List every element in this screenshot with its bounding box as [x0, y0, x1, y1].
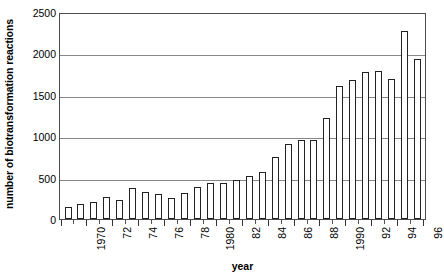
bar [220, 183, 227, 219]
bar [336, 86, 343, 219]
x-axis-tick [281, 220, 282, 224]
y-axis-tick-label: 1500 [20, 91, 56, 101]
bar [77, 204, 84, 219]
x-axis-tick-label: 96 [432, 227, 444, 261]
x-axis-tick-label: 84 [276, 227, 288, 261]
x-axis-tick-label: 72 [121, 227, 133, 261]
x-axis-tick [73, 220, 74, 224]
x-axis-tick-label: 76 [173, 227, 185, 261]
x-axis-tick [255, 220, 256, 224]
bar [323, 118, 330, 219]
y-axis-title-text: number of biotransformation reactions [3, 19, 15, 209]
x-axis-tick-label: 74 [147, 227, 159, 261]
x-axis-tick-label: 94 [406, 227, 418, 261]
bars-layer [60, 14, 425, 219]
bar [362, 72, 369, 219]
y-axis-tick-label: 2500 [20, 8, 56, 18]
bar [207, 183, 214, 219]
bar [388, 79, 395, 219]
bar [129, 188, 136, 219]
bar [375, 71, 382, 219]
bar [65, 207, 72, 219]
bar [272, 157, 279, 220]
x-axis-tick [332, 220, 333, 224]
y-axis-tick-label: 2000 [20, 49, 56, 59]
bar [246, 176, 253, 219]
plot-area [59, 13, 426, 220]
y-axis-tick-labels: 05001000150020002500 [18, 0, 56, 279]
x-axis-tick-labels: 1970727476781980828486881990929496 [59, 226, 426, 260]
y-axis-tick-label: 0 [20, 215, 56, 225]
x-axis-tick [99, 220, 100, 224]
bar [90, 202, 97, 219]
x-axis-tick [125, 220, 126, 224]
x-axis-tick-label: 1990 [354, 227, 366, 261]
y-axis-tick-label: 1000 [20, 132, 56, 142]
x-axis-tick [229, 220, 230, 224]
x-axis-tick [203, 220, 204, 224]
x-axis-title: year [59, 260, 426, 272]
y-axis-tick-label: 500 [20, 174, 56, 184]
bar [298, 140, 305, 219]
bar [285, 144, 292, 219]
x-axis-tick-label: 92 [380, 227, 392, 261]
x-axis-tick [151, 220, 152, 224]
x-axis-tick-label: 86 [302, 227, 314, 261]
bar [259, 172, 266, 219]
bar [233, 180, 240, 219]
x-axis-tick-label: 1980 [224, 227, 236, 261]
bar [414, 59, 421, 219]
bar [401, 31, 408, 219]
bar [349, 80, 356, 219]
bar [103, 197, 110, 219]
bar [168, 198, 175, 219]
bar [155, 194, 162, 219]
x-axis-tick [177, 220, 178, 224]
x-axis-tick [307, 220, 308, 224]
x-axis-tick-label: 88 [328, 227, 340, 261]
bar [181, 193, 188, 219]
x-axis-tick [384, 220, 385, 224]
bar [142, 192, 149, 219]
bar [116, 200, 123, 219]
x-axis-tick [410, 220, 411, 224]
x-axis-tick-label: 82 [250, 227, 262, 261]
x-axis-tick-label: 1970 [95, 227, 107, 261]
bar [310, 140, 317, 219]
x-axis-tick-label: 78 [199, 227, 211, 261]
y-axis-title: number of biotransformation reactions [0, 0, 18, 228]
bar [194, 187, 201, 219]
x-axis-tick [358, 220, 359, 224]
